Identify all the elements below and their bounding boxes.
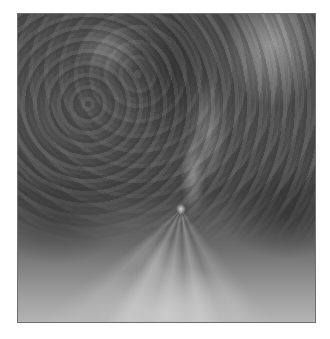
image-caption [17,326,177,336]
image-ray-fan [18,14,315,322]
focal-point [176,204,186,214]
texture-image [17,13,316,323]
